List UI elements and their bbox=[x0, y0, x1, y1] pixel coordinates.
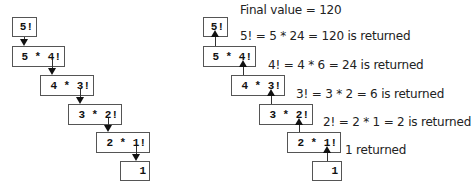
right-connector-1 bbox=[215, 37, 216, 46]
left-box-3-times-2-factorial: 3 * 2! bbox=[68, 104, 122, 125]
arrow-down-icon bbox=[76, 97, 84, 104]
left-box-5-times-4-factorial: 5 * 4! bbox=[12, 46, 65, 67]
return-label-1: 1 returned bbox=[345, 143, 406, 157]
final-value-label: Final value = 120 bbox=[240, 3, 341, 17]
right-box-3-times-2-factorial: 3 * 2! bbox=[259, 104, 313, 125]
right-connector-2 bbox=[243, 67, 244, 75]
left-connector-5 bbox=[136, 146, 137, 154]
left-connector-4 bbox=[108, 118, 109, 125]
right-box-2-times-1-factorial: 2 * 1! bbox=[287, 132, 341, 153]
left-box-4-times-3-factorial: 4 * 3! bbox=[40, 75, 94, 96]
arrow-down-icon bbox=[132, 154, 140, 161]
left-connector-2 bbox=[52, 60, 53, 68]
arrow-down-icon bbox=[20, 39, 28, 46]
arrow-up-icon bbox=[323, 146, 331, 153]
arrow-up-icon bbox=[239, 60, 247, 67]
right-connector-3 bbox=[271, 96, 272, 104]
left-box-1: 1 bbox=[120, 161, 150, 181]
arrow-up-icon bbox=[211, 30, 219, 37]
arrow-down-icon bbox=[104, 125, 112, 132]
arrow-up-icon bbox=[295, 118, 303, 125]
arrow-down-icon bbox=[48, 68, 56, 75]
right-connector-5 bbox=[327, 153, 328, 161]
left-box-2-times-1-factorial: 2 * 1! bbox=[96, 132, 150, 153]
left-box-5-factorial: 5! bbox=[12, 17, 37, 37]
return-label-5: 5! = 5 * 24 = 120 is returned bbox=[240, 29, 410, 43]
return-label-2: 2! = 2 * 1 = 2 is returned bbox=[323, 115, 471, 129]
return-label-4: 4! = 4 * 6 = 24 is returned bbox=[268, 58, 424, 72]
return-label-3: 3! = 3 * 2 = 6 is returned bbox=[296, 87, 444, 101]
right-box-4-times-3-factorial: 4 * 3! bbox=[231, 75, 285, 96]
right-box-5-times-4-factorial: 5 * 4! bbox=[203, 46, 256, 67]
right-box-1: 1 bbox=[312, 161, 342, 181]
right-connector-4 bbox=[299, 125, 300, 132]
left-connector-3 bbox=[80, 89, 81, 97]
arrow-up-icon bbox=[267, 89, 275, 96]
